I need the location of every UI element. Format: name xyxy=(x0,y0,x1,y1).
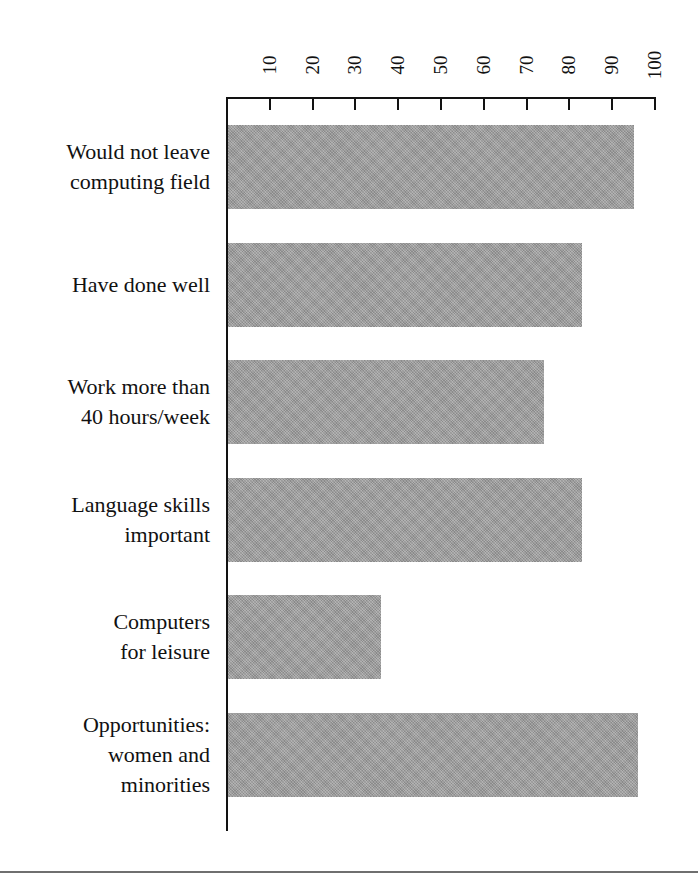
category-label-2: Have done well xyxy=(10,270,210,300)
axis-tick-20 xyxy=(312,99,314,110)
bar-6 xyxy=(228,713,638,797)
category-label-1-line-1: Would not leave xyxy=(10,137,210,167)
category-label-5: Computersfor leisure xyxy=(10,607,210,667)
category-label-4: Language skillsimportant xyxy=(10,490,210,550)
category-label-3-line-2: 40 hours/week xyxy=(10,402,210,432)
category-label-3: Work more than40 hours/week xyxy=(10,372,210,432)
category-label-2-line-1: Have done well xyxy=(10,270,210,300)
axis-tick-80 xyxy=(568,99,570,110)
axis-tick-40 xyxy=(397,99,399,110)
category-label-4-line-2: important xyxy=(10,520,210,550)
bottom-divider-rule xyxy=(0,871,698,873)
axis-tick-50 xyxy=(440,99,442,110)
axis-tick-30 xyxy=(354,99,356,110)
category-label-1-line-2: computing field xyxy=(10,167,210,197)
bar-4 xyxy=(228,478,582,562)
axis-tick-100 xyxy=(654,99,656,110)
bar-5 xyxy=(228,595,381,679)
bar-3 xyxy=(228,360,544,444)
category-label-4-line-1: Language skills xyxy=(10,490,210,520)
axis-tick-90 xyxy=(611,99,613,110)
category-label-5-line-2: for leisure xyxy=(10,637,210,667)
category-label-5-line-1: Computers xyxy=(10,607,210,637)
bar-1 xyxy=(228,125,634,209)
bar-chart-plot: 102030405060708090100 Would not leavecom… xyxy=(0,0,698,881)
chart-figure: 102030405060708090100 Would not leavecom… xyxy=(0,0,698,881)
axis-tick-70 xyxy=(526,99,528,110)
bar-2 xyxy=(228,243,582,327)
category-label-6-line-3: minorities xyxy=(10,770,210,800)
axis-tick-label-100: 100 xyxy=(628,38,682,92)
category-label-6-line-1: Opportunities: xyxy=(10,710,210,740)
axis-tick-10 xyxy=(269,99,271,110)
axis-tick-60 xyxy=(483,99,485,110)
category-label-6: Opportunities:women andminorities xyxy=(10,710,210,800)
category-label-3-line-1: Work more than xyxy=(10,372,210,402)
category-label-1: Would not leavecomputing field xyxy=(10,137,210,197)
category-label-6-line-2: women and xyxy=(10,740,210,770)
